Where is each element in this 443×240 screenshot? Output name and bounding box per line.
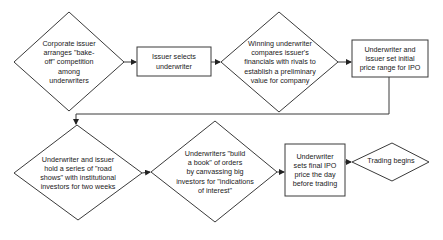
node-7-label: Underwriter sets final IPO price the day… <box>285 144 345 196</box>
node-5-label: Underwriter and issuer hold a series of … <box>30 150 126 196</box>
node-2-label: Issuer selects underwriter <box>137 47 211 76</box>
node-1-label: Corporate issuer arranges "bake- off" co… <box>34 36 104 88</box>
node-6-label: Underwriters "build a book" of orders by… <box>165 146 265 198</box>
node-8-label: Trading begins <box>356 150 426 172</box>
edge-4-5 <box>76 77 389 124</box>
node-3-label: Winning underwriter compares issuer's fi… <box>240 36 320 88</box>
node-4-label: Underwriter and issuer set initial price… <box>352 40 428 77</box>
edge-5-6 <box>142 172 150 173</box>
